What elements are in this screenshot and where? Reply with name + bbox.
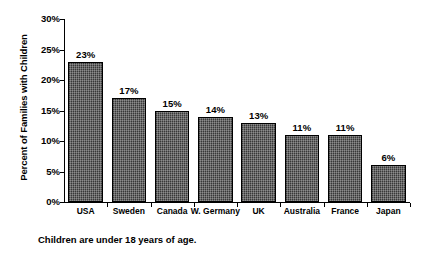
bar-rect[interactable] [285, 135, 320, 202]
y-axis-tick-label: 0% [28, 197, 60, 207]
bar-value-label: 23% [59, 50, 112, 60]
bar-group[interactable]: 15% [155, 19, 190, 202]
y-axis-tick-label: 5% [28, 167, 60, 177]
bar-rect[interactable] [241, 123, 276, 202]
bar-rect[interactable] [155, 111, 190, 203]
bars-layer: 23%17%15%14%13%11%11%6% [64, 19, 410, 202]
bar-group[interactable]: 23% [68, 19, 103, 202]
bar-rect[interactable] [198, 117, 233, 202]
y-axis-title: Percent of Families with Children [18, 13, 29, 203]
y-axis-tick-labels: 0%5%10%15%20%25%30% [28, 12, 60, 208]
bar-value-label: 6% [362, 153, 415, 163]
bar-group[interactable]: 6% [371, 19, 406, 202]
bar-rect[interactable] [112, 98, 147, 202]
y-axis-tick-label: 10% [28, 136, 60, 146]
y-axis-tick-label: 15% [28, 106, 60, 116]
x-axis-category-label: Japan [361, 206, 416, 217]
x-axis-category-labels: USASwedenCanadaW. GermanyUKAustraliaFran… [64, 206, 414, 220]
bar-value-label: 17% [103, 86, 156, 96]
y-axis-tick-label: 20% [28, 75, 60, 85]
bar-rect[interactable] [371, 165, 406, 202]
bar-value-label: 11% [319, 123, 372, 133]
bar-group[interactable]: 14% [198, 19, 233, 202]
y-axis-tick-label: 30% [28, 14, 60, 24]
y-axis-tick-label: 25% [28, 45, 60, 55]
bar-chart-figure: Percent of Families with Children 0%5%10… [0, 0, 427, 264]
bar-group[interactable]: 13% [241, 19, 276, 202]
bar-group[interactable]: 17% [112, 19, 147, 202]
y-axis-tick-mark [60, 202, 64, 203]
bar-rect[interactable] [328, 135, 363, 202]
plot-area: 23%17%15%14%13%11%11%6% [64, 19, 410, 202]
chart-caption: Children are under 18 years of age. [38, 234, 196, 245]
bar-group[interactable]: 11% [285, 19, 320, 202]
bar-group[interactable]: 11% [328, 19, 363, 202]
bar-rect[interactable] [68, 62, 103, 202]
bar-value-label: 13% [232, 111, 285, 121]
